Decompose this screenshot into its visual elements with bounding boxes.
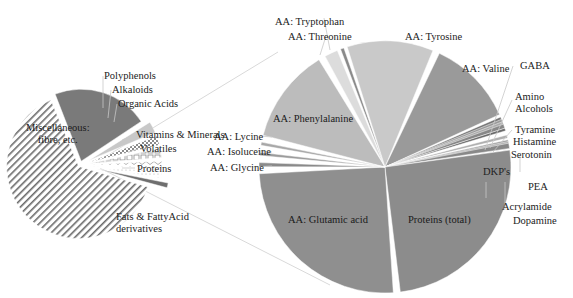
slice-label-aa-tryptophan: AA: Tryptophan: [275, 16, 344, 28]
slice-label-histamine: Histamine: [513, 136, 556, 148]
slice-label-proteins-total: Proteins (total): [408, 214, 471, 226]
pie-slice-aa-glutamic-acid: [259, 167, 393, 293]
slice-label-alkaloids: Alkaloids: [112, 84, 153, 96]
slice-label-gaba: GABA: [520, 60, 550, 72]
slice-label-aa-glutamic-acid: AA: Glutamic acid: [288, 214, 368, 226]
slice-label-miscellaneous-fibre-etc: Miscellaneous: fibre, etc.: [26, 122, 90, 146]
pie-of-pie-chart: [0, 0, 573, 298]
slice-label-dkp-s: DKP's: [483, 166, 510, 178]
slice-label-volatiles: Volatiles: [140, 143, 177, 155]
slice-label-amino-alcohols: Amino Alcohols: [515, 91, 553, 115]
slice-label-polyphenols: Polyphenols: [104, 70, 156, 82]
slice-label-dopamine: Dopamine: [513, 215, 557, 227]
slice-label-fats-fattyacid-derivatives: Fats & FattyAcid derivatives: [116, 211, 189, 235]
slice-label-aa-phenylalanine: AA: Phenylalanine: [273, 113, 353, 125]
slice-label-tyramine: Tyramine: [515, 124, 555, 136]
slice-label-acrylamide: Acrylamide: [502, 201, 552, 213]
slice-label-serotonin: Serotonin: [511, 149, 552, 161]
protein-breakdown-pie: [259, 41, 511, 293]
slice-label-organic-acids: Organic Acids: [118, 98, 178, 110]
slice-label-aa-tyrosine: AA: Tyrosine: [405, 31, 462, 43]
slice-label-pea: PEA: [528, 181, 548, 193]
slice-label-vitamins-minerals: Vitamins & Minerals: [136, 129, 225, 141]
slice-label-aa-isoluceine: AA: Isoluceine: [207, 146, 271, 158]
slice-label-aa-glycine: AA: Glycine: [210, 162, 264, 174]
slice-label-proteins: Proteins: [137, 163, 171, 175]
slice-label-aa-lycine: AA: Lycine: [214, 131, 263, 143]
slice-label-aa-valine: AA: Valine: [462, 63, 509, 75]
slice-label-aa-threonine: AA: Threonine: [288, 31, 352, 43]
